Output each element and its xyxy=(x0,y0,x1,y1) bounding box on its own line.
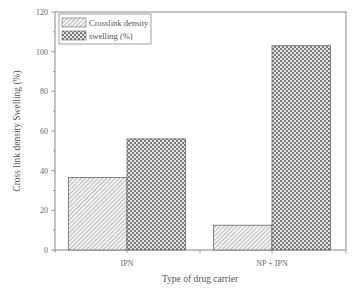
y-tick-label: 80 xyxy=(40,87,48,96)
y-axis: 020406080100120 xyxy=(36,8,55,255)
bar-swelling-0 xyxy=(127,139,186,250)
y-tick-label: 100 xyxy=(36,48,48,57)
x-axis-title: Type of drug carrier xyxy=(162,274,239,284)
x-axis: IPNNP + IPN xyxy=(55,250,346,268)
y-tick-label: 40 xyxy=(40,167,48,176)
x-category-label: IPN xyxy=(121,259,134,268)
bar-swelling-1 xyxy=(272,46,331,250)
bar-chart: 020406080100120 IPNNP + IPN Crosslink de… xyxy=(0,0,354,292)
bar-crosslink-0 xyxy=(69,178,128,250)
legend: Crosslink density swelling (%) xyxy=(59,14,151,44)
legend-swatch-crosslink xyxy=(62,18,86,27)
legend-swatch-swelling xyxy=(62,31,86,40)
legend-label-swelling: swelling (%) xyxy=(89,31,133,41)
y-tick-label: 120 xyxy=(36,8,48,17)
x-category-label: NP + IPN xyxy=(256,259,288,268)
bars xyxy=(69,46,331,250)
legend-label-crosslink: Crosslink density xyxy=(89,18,149,28)
y-tick-label: 20 xyxy=(40,206,48,215)
y-tick-label: 0 xyxy=(44,246,48,255)
bar-crosslink-1 xyxy=(214,225,273,250)
y-axis-title: Cross link density Swelling (%) xyxy=(12,70,23,191)
y-tick-label: 60 xyxy=(40,127,48,136)
